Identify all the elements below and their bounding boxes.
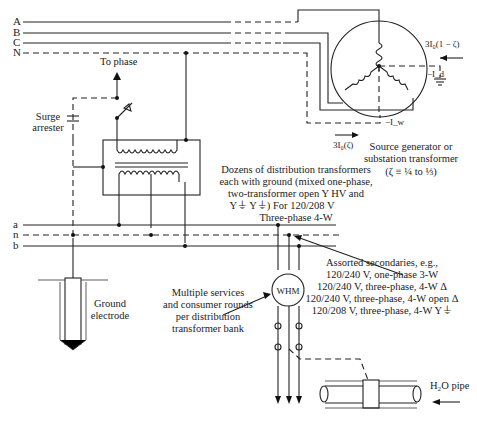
assorted-label-3: 120/240 V, three-phase, 4-W Δ xyxy=(317,281,447,292)
multiple-label-4: transformer bank xyxy=(172,323,245,334)
surge-label-2: arrester xyxy=(32,122,64,133)
ground-electrode-label-1: Ground xyxy=(94,298,127,309)
assorted-label-4: 120/240 V, three-phase, 4-W open Δ xyxy=(306,293,459,304)
sec-bus-label-b: b xyxy=(13,239,19,251)
minus-id-label: −I_d xyxy=(427,69,445,79)
dozens-label-5: Three-phase 4-W xyxy=(259,212,332,223)
to-phase-label: To phase xyxy=(100,56,138,67)
primary-buses: A B C N xyxy=(13,15,305,58)
whm-label: WHM xyxy=(277,286,300,296)
ground-electrode: Ground electrode xyxy=(38,238,130,350)
current-top-label: 3I₀(1 − ζ) xyxy=(425,39,459,49)
dozens-label-4: Y⏚ Y⏚) For 120/208 V xyxy=(229,200,335,212)
dozens-label-3: two-transformer open Y HV and xyxy=(228,188,365,199)
assorted-label-5: 120/208 V, three-phase, 4-W Y⏚ xyxy=(312,305,452,316)
distribution-transformer xyxy=(73,51,200,243)
source-label-1: Source generator or xyxy=(370,141,453,152)
minus-iw-label: −I_w xyxy=(385,117,405,127)
bus-label-n: N xyxy=(13,46,21,58)
source-label-2: substation transformer xyxy=(364,153,459,164)
multiple-label-3: per distribution xyxy=(176,311,241,322)
current-bottom-label: 3I₀(ζ) xyxy=(333,140,353,150)
dozens-label-1: Dozens of distribution transformers xyxy=(221,164,371,175)
multiple-label-1: Multiple services xyxy=(172,287,245,298)
multiple-label-2: and consumer rounds xyxy=(163,299,253,310)
source-label-3: (ζ ≡ ¼ to ⅓) xyxy=(385,166,437,178)
distribution-diagram: A B C N 3I₀(1 − ζ) −I_d −I_w xyxy=(0,0,477,423)
water-pipe: H₂O pipe xyxy=(320,380,470,408)
water-pipe-label: H₂O pipe xyxy=(430,380,470,391)
assorted-label-1: Assorted secondaries, e.g., xyxy=(326,257,438,268)
surge-label-1: Surge xyxy=(36,111,61,122)
source-generator: 3I₀(1 − ζ) −I_d −I_w 3I₀(ζ) Source gener… xyxy=(331,21,463,178)
ground-electrode-label-2: electrode xyxy=(91,310,130,321)
assorted-label-2: 120/240 V, one-phase 3-W xyxy=(326,269,438,280)
surge-arrester: To phase Surge arrester xyxy=(32,56,138,140)
dozens-label-2: each with ground (mixed one-phase, xyxy=(219,176,372,188)
